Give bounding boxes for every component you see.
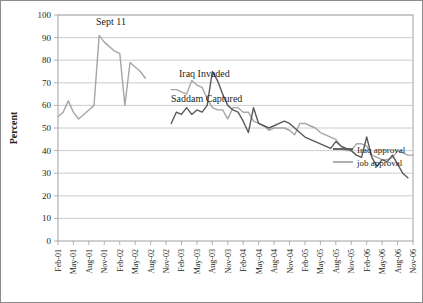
y-tick-label: 30 [42, 168, 52, 178]
y-tick-label: 100 [38, 10, 52, 20]
x-tick-label: Aug-01 [85, 249, 94, 273]
y-tick-label: 80 [42, 55, 52, 65]
y-tick-label: 10 [42, 213, 52, 223]
x-tick-label: Feb-04 [239, 249, 248, 272]
x-tick-label: Aug-03 [208, 249, 217, 273]
x-tick-label: Aug-06 [394, 249, 403, 273]
legend-label: Iraq approval [357, 145, 406, 155]
x-tick-label: Aug-02 [147, 249, 156, 273]
x-tick-label: Aug-05 [332, 249, 341, 273]
x-tick-label: May-06 [378, 249, 387, 274]
y-tick-label: 0 [47, 236, 52, 246]
x-tick-label: May-05 [316, 249, 325, 274]
y-tick-label: 20 [42, 191, 52, 201]
annotation-sept-11: Sept 11 [96, 16, 126, 27]
legend-label: job approval [356, 158, 403, 168]
y-tick-label: 60 [42, 100, 52, 110]
y-tick-label: 40 [42, 146, 52, 156]
x-tick-label: Nov-03 [224, 249, 233, 273]
y-tick-label: 50 [42, 123, 52, 133]
chart-figure: 1009080706050403020100 Percent Feb-01May… [0, 0, 423, 303]
x-tick-label: Feb-06 [363, 249, 372, 272]
x-tick-label: Nov-02 [162, 249, 171, 273]
x-axis-tick-marks [58, 241, 413, 245]
x-tick-label: Feb-02 [116, 249, 125, 272]
x-tick-label: May-04 [255, 249, 264, 274]
x-tick-label: Nov-04 [286, 249, 295, 273]
x-tick-label: Nov-01 [100, 249, 109, 273]
x-tick-label: Aug-04 [270, 249, 279, 273]
x-tick-label: Nov-05 [347, 249, 356, 273]
y-axis-tick-labels: 1009080706050403020100 [38, 10, 52, 246]
annotation-iraq-invaded: Iraq Invaded [179, 68, 230, 79]
x-tick-label: May-03 [193, 249, 202, 274]
y-tick-label: 90 [42, 33, 52, 43]
x-tick-label: Nov-06 [409, 249, 418, 273]
x-tick-label: May-01 [69, 249, 78, 274]
approval-line-chart: 1009080706050403020100 Percent Feb-01May… [1, 1, 423, 303]
x-tick-label: Feb-01 [54, 249, 63, 272]
x-tick-label: Feb-05 [301, 249, 310, 272]
x-axis-tick-labels: Feb-01May-01Aug-01Nov-01Feb-02May-02Aug-… [54, 249, 418, 274]
x-tick-label: May-02 [131, 249, 140, 274]
y-axis-title: Percent [8, 111, 19, 144]
y-tick-label: 70 [42, 78, 52, 88]
x-tick-label: Feb-03 [177, 249, 186, 272]
annotation-saddam-captured: Saddam Captured [171, 93, 242, 104]
